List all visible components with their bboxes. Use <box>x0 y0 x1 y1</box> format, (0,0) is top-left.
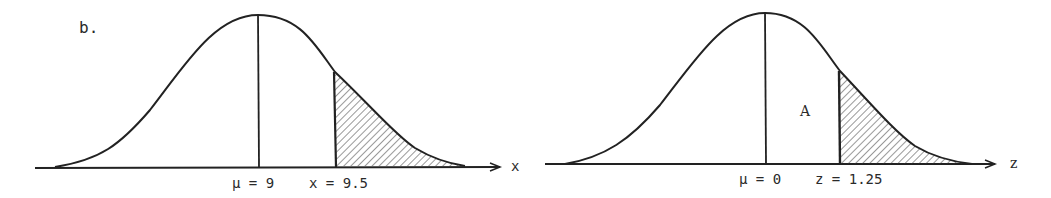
left-x-axis <box>35 167 500 168</box>
left-shaded-tail <box>335 72 465 166</box>
right-z-value-line <box>839 71 840 164</box>
left-axis-label: x <box>511 159 519 173</box>
left-mu-label: μ = 9 <box>232 176 274 190</box>
normal-curve-figure: b. x μ = 9 x = 9.5 z A μ = 0 z = 1.25 <box>0 0 1051 198</box>
left-normal-curve <box>35 15 500 171</box>
right-normal-curve <box>545 13 995 168</box>
right-bell-curve <box>565 13 972 164</box>
area-label: A <box>800 104 810 118</box>
right-shaded-tail <box>840 71 972 164</box>
right-z-label: z = 1.25 <box>815 172 882 186</box>
left-mean-line <box>258 15 259 167</box>
left-x-label: x = 9.5 <box>309 176 368 190</box>
right-mean-line <box>765 13 766 164</box>
right-axis-label: z <box>1010 156 1017 170</box>
right-mu-label: μ = 0 <box>739 172 781 186</box>
diagram-canvas <box>0 0 1051 198</box>
part-label: b. <box>79 20 98 36</box>
